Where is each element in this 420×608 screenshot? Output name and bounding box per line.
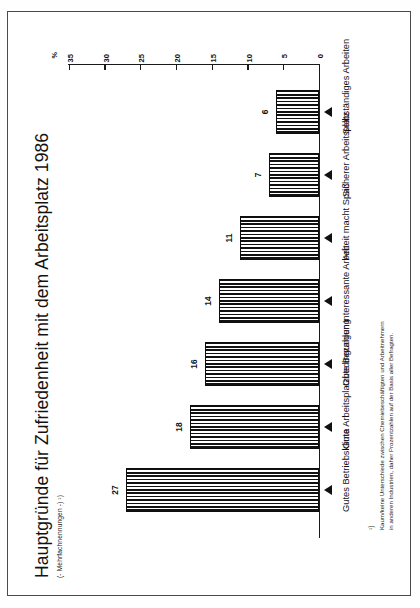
rotated-chart-canvas: Hauptgründe für Zufriedenheit mit dem Ar… xyxy=(14,18,406,590)
y-axis-tick xyxy=(140,64,141,70)
triangle-marker-icon xyxy=(324,170,332,180)
bar-value-label: 6 xyxy=(260,90,270,134)
y-axis-tick-label: 35 xyxy=(66,54,75,62)
bar-value-label: 7 xyxy=(253,153,263,197)
bar-slot: 11 xyxy=(69,216,319,260)
bar xyxy=(269,153,319,197)
y-axis-tick xyxy=(176,64,177,70)
footnote-text: Kaum/keine Unterschiede zwischen Chemieb… xyxy=(377,60,395,530)
category-item: Sicherer Arbeitsplatz xyxy=(324,153,353,197)
category-item: Arbeit macht Spaß xyxy=(324,216,353,260)
bar-series: 271816141176 xyxy=(69,78,319,530)
bar xyxy=(205,342,319,386)
bar xyxy=(126,468,319,512)
title-block: Hauptgründe für Zufriedenheit mit dem Ar… xyxy=(32,158,63,578)
bar xyxy=(219,279,319,323)
category-item: Selbständiges Arbeiten xyxy=(324,90,353,134)
bar-slot: 16 xyxy=(69,342,319,386)
y-axis-tick xyxy=(212,64,213,70)
bar-value-label: 11 xyxy=(224,216,234,260)
y-axis-tick-label: 15 xyxy=(208,54,217,62)
triangle-marker-icon xyxy=(324,233,332,243)
triangle-marker-icon xyxy=(324,485,332,495)
y-axis-tick xyxy=(104,64,105,70)
y-axis-tick-label: 5 xyxy=(280,54,289,58)
y-axis-unit-label: % xyxy=(50,52,59,59)
y-axis-tick-label: 20 xyxy=(173,54,182,62)
triangle-marker-icon xyxy=(324,422,332,432)
bar-slot: 14 xyxy=(69,279,319,323)
footnote-marker: ¹) xyxy=(366,60,376,530)
bar-value-label: 27 xyxy=(110,468,120,512)
bar-value-label: 16 xyxy=(189,342,199,386)
y-axis-tick-label: 10 xyxy=(244,54,253,62)
footnote: ¹) Kaum/keine Unterschiede zwischen Chem… xyxy=(366,60,395,530)
bar-slot: 18 xyxy=(69,405,319,449)
bar xyxy=(276,90,319,134)
category-item: Gute Bezahlung xyxy=(324,342,353,386)
triangle-marker-icon xyxy=(324,359,332,369)
bar-slot: 27 xyxy=(69,468,319,512)
bar xyxy=(240,216,319,260)
triangle-marker-icon xyxy=(324,296,332,306)
chart-title: Hauptgründe für Zufriedenheit mit dem Ar… xyxy=(32,158,53,578)
bar-value-label: 18 xyxy=(174,405,184,449)
y-axis-tick-label: 0 xyxy=(316,54,325,58)
bar-slot: 7 xyxy=(69,153,319,197)
category-label: Selbständiges Arbeiten xyxy=(341,39,351,134)
category-item: Gute Arbeitsplatzbedingungen xyxy=(324,405,353,449)
category-item: Interessante Arbeit xyxy=(324,279,353,323)
bar xyxy=(190,405,319,449)
y-axis-tick xyxy=(283,64,284,70)
chart-subtitle: (- Mehrfachnennungen -) ¹) xyxy=(56,158,63,578)
triangle-marker-icon xyxy=(324,107,332,117)
y-axis-tick xyxy=(247,64,248,70)
chart-page: Hauptgründe für Zufriedenheit mit dem Ar… xyxy=(0,0,420,608)
plot-area: 05101520253035 % 271816141176 xyxy=(70,78,320,530)
y-axis-tick xyxy=(319,64,320,70)
category-item: Gutes Betriebsklima xyxy=(324,468,353,512)
y-axis-tick-label: 30 xyxy=(101,54,110,62)
category-label: Gute Bezahlung xyxy=(341,319,351,386)
y-axis-tick-label: 25 xyxy=(137,54,146,62)
bar-value-label: 14 xyxy=(203,279,213,323)
bar-slot: 6 xyxy=(69,90,319,134)
y-axis-tick xyxy=(69,64,70,70)
